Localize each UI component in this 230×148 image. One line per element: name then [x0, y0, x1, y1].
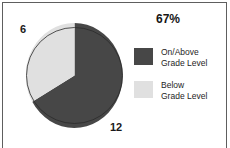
legend-label-below-line1: Below	[161, 80, 207, 91]
legend-item-below[interactable]: Below Grade Level	[134, 80, 226, 101]
slice-label-on-above: 12	[110, 122, 122, 133]
slice-label-below: 6	[20, 24, 26, 35]
legend-label-below-line2: Grade Level	[161, 91, 207, 102]
legend-label-below: Below Grade Level	[161, 80, 207, 101]
pie-chart	[26, 23, 123, 128]
percent-annotation: 67%	[156, 12, 180, 26]
legend-swatch-on-above	[134, 48, 153, 65]
legend-item-on-above[interactable]: On/Above Grade Level	[134, 47, 226, 68]
legend-label-on-above: On/Above Grade Level	[161, 47, 207, 68]
legend-swatch-below	[134, 81, 153, 98]
legend-label-on-above-line2: Grade Level	[161, 58, 207, 69]
legend: On/Above Grade Level Below Grade Level	[134, 47, 226, 113]
pie-svg	[26, 23, 123, 128]
chart-screenshot: 67% 6 12 On/Above Grade Level Below Grad…	[0, 0, 230, 148]
legend-label-on-above-line1: On/Above	[161, 47, 207, 58]
